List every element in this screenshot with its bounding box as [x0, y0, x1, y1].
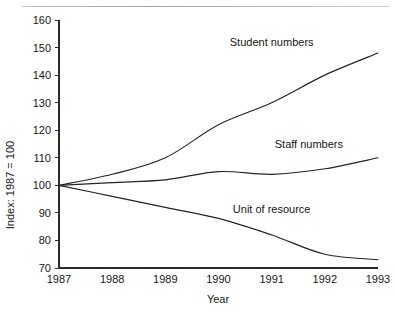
y-tick-label: 130: [33, 97, 51, 109]
series-label-staff-numbers: Staff numbers: [275, 138, 344, 150]
y-tick-label: 90: [39, 207, 51, 219]
x-tick-label: 1991: [259, 273, 283, 285]
y-tick-label: 120: [33, 124, 51, 136]
x-tick-label: 1987: [47, 273, 71, 285]
line-chart: 708090100110120130140150160 198719881989…: [0, 0, 395, 313]
x-tick-label: 1989: [153, 273, 177, 285]
y-axis-ticks: 708090100110120130140150160: [33, 14, 59, 274]
y-axis-title: Index: 1987 = 100: [4, 141, 16, 229]
y-tick-label: 160: [33, 14, 51, 26]
figure-canvas: 708090100110120130140150160 198719881989…: [0, 0, 395, 313]
y-tick-label: 110: [33, 152, 51, 164]
y-tick-label: 140: [33, 69, 51, 81]
x-tick-label: 1988: [100, 273, 124, 285]
series-inline-labels: Student numbersStaff numbersUnit of reso…: [230, 36, 344, 215]
x-tick-label: 1993: [366, 273, 390, 285]
series-lines: [59, 53, 378, 260]
series-line-student-numbers: [59, 53, 378, 185]
y-tick-label: 150: [33, 42, 51, 54]
x-tick-label: 1990: [206, 273, 230, 285]
x-axis-ticks: 1987198819891990199119921993: [47, 273, 390, 285]
series-label-student-numbers: Student numbers: [230, 36, 314, 48]
series-line-staff-numbers: [59, 158, 378, 186]
x-tick-label: 1992: [313, 273, 337, 285]
y-tick-label: 100: [33, 179, 51, 191]
series-label-unit-of-resource: Unit of resource: [233, 203, 311, 215]
x-axis-title: Year: [207, 293, 230, 305]
y-tick-label: 80: [39, 234, 51, 246]
series-line-unit-of-resource: [59, 185, 378, 259]
